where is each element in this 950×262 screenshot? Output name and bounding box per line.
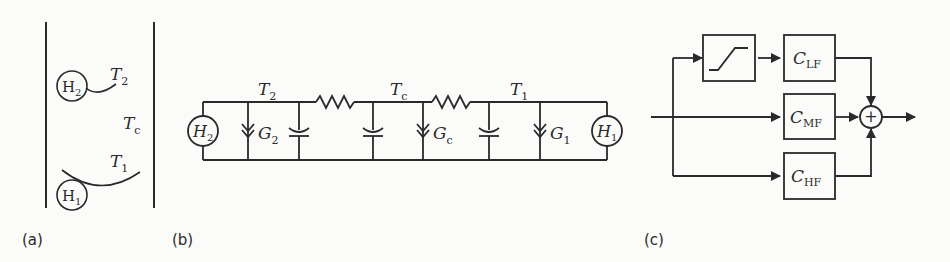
label-b-tc: Tc bbox=[390, 79, 408, 103]
resistor-1 bbox=[316, 96, 354, 108]
curve-t2 bbox=[86, 84, 116, 92]
label-a-h1: H1 bbox=[62, 187, 81, 207]
resistor-2 bbox=[432, 96, 470, 108]
label-b-h1: H1 bbox=[596, 122, 617, 143]
saturation-block bbox=[703, 35, 755, 81]
label-b-h2: H2 bbox=[192, 122, 213, 143]
label-a-h2: H2 bbox=[62, 78, 81, 98]
label-a-tc: Tc bbox=[123, 113, 141, 137]
label-clf: CLF bbox=[793, 48, 821, 71]
caption-b: (b) bbox=[172, 231, 193, 249]
figure-canvas: H2 H1 T2 Tc T1 (a) bbox=[0, 0, 950, 262]
sum-plus: + bbox=[864, 107, 877, 126]
label-a-t1: T1 bbox=[110, 151, 128, 175]
label-b-t2: T2 bbox=[258, 79, 276, 103]
label-b-gc: Gc bbox=[433, 123, 453, 147]
label-b-g1: G1 bbox=[550, 123, 571, 147]
caption-a: (a) bbox=[22, 231, 43, 249]
panel-a bbox=[46, 22, 154, 210]
label-b-t1: T1 bbox=[510, 79, 528, 103]
saturation-icon bbox=[709, 48, 748, 70]
label-a-t2: T2 bbox=[110, 64, 128, 88]
label-chf: CHF bbox=[791, 166, 822, 189]
label-b-g2: G2 bbox=[258, 123, 279, 147]
label-cmf: CMF bbox=[790, 107, 822, 130]
caption-c: (c) bbox=[644, 231, 664, 249]
